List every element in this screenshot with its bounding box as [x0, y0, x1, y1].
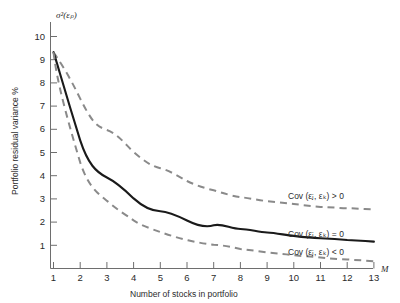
y-tick-label: 8: [40, 77, 45, 88]
x-tick-label: 13: [369, 272, 380, 283]
x-axis-tick-labels: 1 2 3 4 5 6 7 8 9 10 11 12 13: [51, 272, 379, 283]
annotation-cov-positive: Cov (εⱼ, εₖ) > 0: [288, 191, 344, 201]
y-axis-tick-labels: 10 9 8 7 6 5 4 3 2 1: [34, 31, 45, 251]
x-axis-title: Number of stocks in portfolio: [130, 289, 238, 299]
x-tick-label: 6: [184, 272, 189, 283]
figure-container: 10 9 8 7 6 5 4 3 2 1: [0, 0, 400, 303]
y-tick-label: 2: [40, 216, 45, 227]
annotation-cov-zero: Cov (εⱼ, εₖ) = 0: [288, 229, 344, 239]
y-tick-label: 3: [40, 193, 45, 204]
y-axis-symbol-label: σ²(εₚ): [56, 10, 77, 20]
curve-cov-zero: [54, 52, 374, 241]
residual-variance-chart: 10 9 8 7 6 5 4 3 2 1: [0, 0, 400, 303]
curve-cov-positive: [54, 52, 374, 209]
y-tick-label: 1: [40, 240, 45, 251]
x-tick-label: 4: [131, 272, 136, 283]
x-tick-label: 9: [264, 272, 269, 283]
y-tick-label: 7: [40, 100, 45, 111]
x-tick-label: 11: [316, 272, 326, 283]
x-tick-label: 3: [104, 272, 109, 283]
y-tick-label: 5: [40, 147, 45, 158]
x-tick-label: 12: [342, 272, 353, 283]
x-tick-label: 7: [211, 272, 216, 283]
x-tick-label: 10: [289, 272, 300, 283]
y-tick-label: 6: [40, 123, 45, 134]
x-axis-ticks: [54, 262, 374, 269]
x-tick-label: 2: [78, 272, 83, 283]
y-tick-label: 10: [34, 31, 45, 42]
annotation-cov-negative: Cov (εⱼ, εₖ) < 0: [288, 247, 344, 257]
x-axis-symbol-label: M: [380, 264, 389, 274]
x-tick-label: 5: [158, 272, 163, 283]
y-axis-title: Portfolio residual variance %: [10, 87, 20, 195]
y-tick-label: 4: [40, 170, 45, 181]
y-tick-label: 9: [40, 54, 45, 65]
x-tick-label: 1: [51, 272, 56, 283]
x-tick-label: 8: [238, 272, 243, 283]
